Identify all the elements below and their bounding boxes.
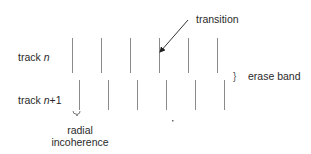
diagram-canvas: track n track n+1 transition } erase ban… [0, 0, 311, 154]
transition-arrow-icon [160, 20, 188, 52]
erase-band-brace-icon: } [233, 71, 236, 83]
radial-incoherence-brace-icon [73, 111, 80, 116]
track-n-label: track n [18, 51, 50, 63]
track-n-label-prefix: track [18, 51, 44, 63]
track-n-label-variable: n [44, 51, 50, 63]
track-n-transitions [73, 38, 218, 73]
track-n-plus-1-label: track n+1 [18, 94, 62, 106]
erase-band-label: erase band [248, 70, 301, 82]
track-n1-label-suffix: +1 [50, 94, 62, 106]
stray-dot [172, 120, 174, 122]
track-n1-label-prefix: track [18, 94, 44, 106]
radial-incoherence-label-line2: incoherence [51, 136, 108, 148]
radial-incoherence-label-line1: radial [67, 124, 93, 136]
track-n-plus-1-transitions [80, 80, 225, 110]
transition-label: transition [196, 13, 239, 25]
